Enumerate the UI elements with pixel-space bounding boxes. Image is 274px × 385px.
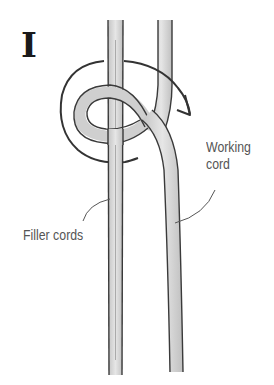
working-cord-leader-line <box>175 190 215 223</box>
step-label: I <box>21 28 37 62</box>
knot-illustration: I Working cord Filler cords <box>0 0 274 385</box>
knot-drawing <box>0 0 274 385</box>
working-cord-label: Working cord <box>206 139 251 173</box>
working-cord-label-line2: cord <box>206 156 251 173</box>
working-cord-lower <box>142 110 183 372</box>
working-cord-label-line1: Working <box>206 139 251 156</box>
filler-cords-leader-line <box>83 199 110 221</box>
filler-cords-label: Filler cords <box>23 227 83 244</box>
filler-cords <box>108 20 123 375</box>
arrow-head-icon <box>177 95 190 115</box>
